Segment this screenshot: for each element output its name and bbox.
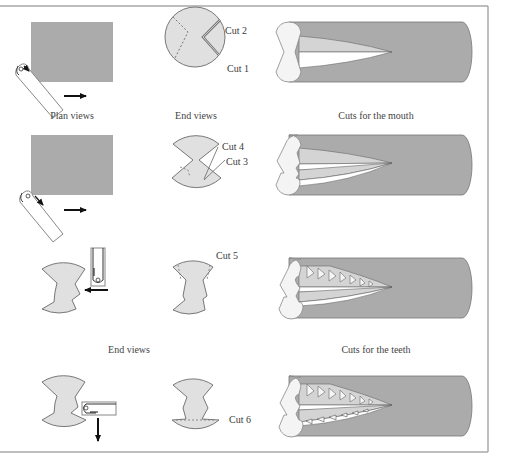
end-view-4 — [172, 379, 219, 429]
caption-cuts-teeth: Cuts for the teeth — [341, 344, 410, 355]
label-cut-1: Cut 1 — [227, 63, 249, 74]
mouth-bar-2 — [276, 135, 472, 195]
label-cut-5: Cut 5 — [216, 250, 238, 261]
teeth-bar-4 — [279, 376, 472, 437]
diagram-svg — [0, 0, 506, 466]
plan-view-1 — [16, 22, 113, 118]
diagram-canvas: Plan views End views Cuts for the mouth … — [0, 0, 506, 466]
label-cut-6: Cut 6 — [229, 414, 251, 425]
plan-view-2 — [20, 135, 113, 242]
tool-end-view-4 — [42, 376, 116, 441]
caption-plan-views: Plan views — [50, 110, 94, 121]
label-cut-2: Cut 2 — [225, 25, 247, 36]
teeth-bar-3 — [279, 258, 472, 319]
end-view-2 — [172, 136, 225, 188]
end-view-1 — [165, 7, 225, 67]
caption-end-views-top: End views — [175, 110, 217, 121]
label-cut-4: Cut 4 — [222, 141, 244, 152]
caption-end-views-mid: End views — [108, 344, 150, 355]
label-cut-3: Cut 3 — [226, 156, 248, 167]
mouth-bar-1 — [276, 22, 472, 82]
caption-cuts-mouth: Cuts for the mouth — [338, 110, 413, 121]
tool-end-view-3 — [42, 248, 108, 313]
end-view-3 — [173, 261, 213, 314]
